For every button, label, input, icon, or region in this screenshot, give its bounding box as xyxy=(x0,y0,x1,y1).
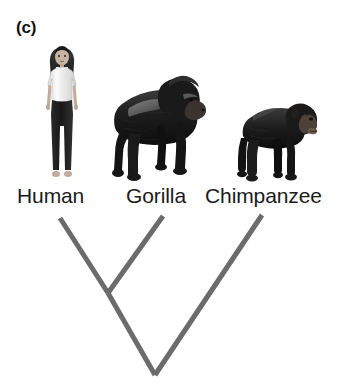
branch-human-gorilla-ancestor-to-human xyxy=(60,218,108,293)
branch-human-gorilla-ancestor-to-gorilla xyxy=(108,216,163,293)
phylogenetic-tree-figure: (c) xyxy=(0,0,357,384)
branch-root-to-chimpanzee xyxy=(155,215,262,375)
cladogram-branches xyxy=(0,0,357,384)
branch-root-to-human-gorilla-ancestor xyxy=(108,293,155,375)
